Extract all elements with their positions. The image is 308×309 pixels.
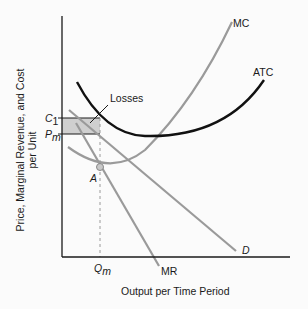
qm-label: Qm	[94, 262, 111, 277]
diagram-frame: MC ATC D MR Losses A C1 Pm Qm Output per…	[0, 0, 308, 309]
mc-curve	[68, 22, 232, 163]
mr-label: MR	[161, 265, 178, 277]
monopoly-loss-diagram: MC ATC D MR Losses A C1 Pm Qm Output per…	[0, 0, 308, 309]
pm-label: Pm	[45, 128, 61, 143]
y-axis-title-line2: per Unit	[26, 132, 38, 169]
demand-label: D	[242, 244, 250, 256]
point-a-label: A	[89, 172, 97, 184]
losses-label: Losses	[110, 92, 143, 104]
x-axis-title: Output per Time Period	[121, 285, 230, 297]
mc-label: MC	[233, 17, 250, 29]
y-axis-title-line1: Price, Marginal Revenue, and Cost	[14, 69, 26, 232]
point-a-marker	[97, 164, 104, 171]
atc-label: ATC	[253, 66, 274, 78]
c1-label: C1	[45, 112, 59, 127]
mr-curve	[76, 123, 159, 266]
